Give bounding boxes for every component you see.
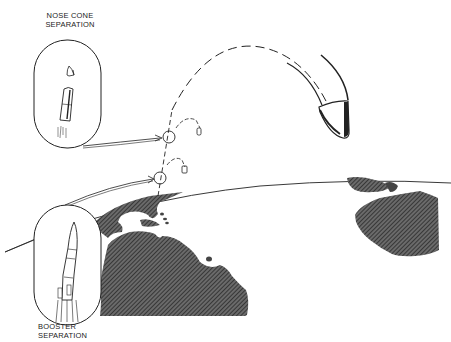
island xyxy=(206,257,212,262)
nose-cone-separation-capsule xyxy=(34,40,101,148)
label-line: SEPARATION xyxy=(40,20,100,29)
landmass-north-america xyxy=(92,192,183,238)
nose-cone-separation-marker xyxy=(163,131,175,143)
discarded-stage-path-upper xyxy=(176,119,200,128)
nose-cone-separation-label: NOSE CONE SEPARATION xyxy=(40,11,100,29)
booster-separation-capsule xyxy=(5,205,101,325)
discarded-stage-path-lower xyxy=(167,158,185,167)
landmass-europe xyxy=(347,177,390,192)
land-masses xyxy=(92,177,439,316)
discarded-stage-upper xyxy=(197,128,201,135)
landmass-africa xyxy=(355,191,439,256)
leader-line-nose-cone-2 xyxy=(83,140,160,148)
island xyxy=(163,218,167,220)
island xyxy=(160,213,164,216)
diagram-canvas xyxy=(0,0,451,342)
booster-separation-marker xyxy=(154,172,166,184)
label-line: BOOSTER xyxy=(38,322,98,331)
booster-separation-label: BOOSTER SEPARATION xyxy=(38,322,98,340)
label-line: NOSE CONE xyxy=(40,11,100,20)
ballistic-trajectory xyxy=(172,46,328,110)
reentry-vehicle xyxy=(287,55,349,138)
label-line: SEPARATION xyxy=(38,331,98,340)
ascent-trajectory xyxy=(158,110,172,196)
island xyxy=(165,222,169,224)
landmass-south-america xyxy=(100,231,248,316)
leader-line-nose-cone xyxy=(83,138,160,146)
discarded-stage-lower xyxy=(182,166,187,173)
landmass-cuba xyxy=(140,219,160,226)
